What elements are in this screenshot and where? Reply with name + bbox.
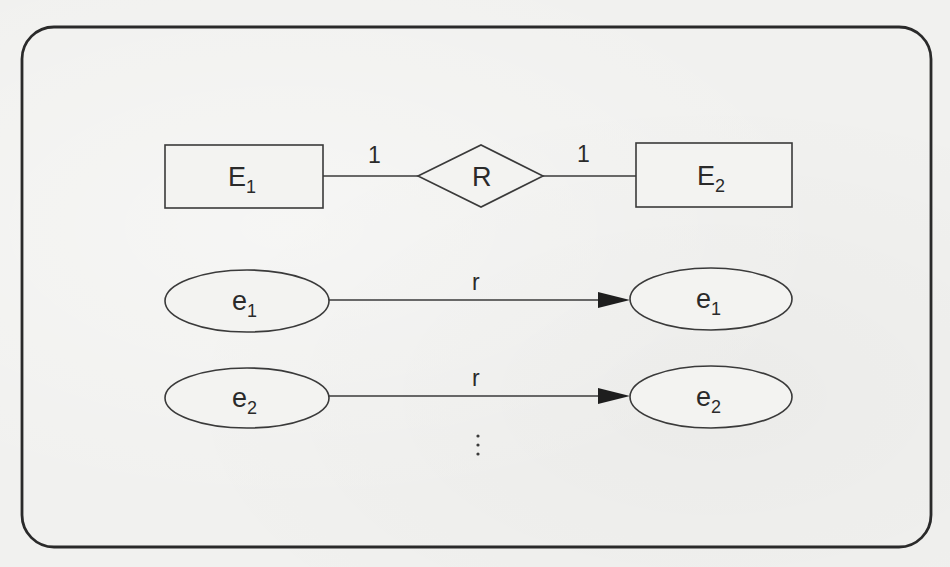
cardinality-left: 1: [368, 142, 381, 168]
continuation-ellipsis-icon: [476, 434, 479, 455]
entity-e2: E2: [636, 143, 792, 207]
diagram-page: E1 R E2 1 1 e1 r e1: [0, 0, 950, 567]
instance-relation-label-1: r: [472, 269, 480, 295]
er-diagram: E1 R E2 1 1 e1 r e1: [0, 0, 950, 567]
arrowhead-icon: [598, 388, 630, 404]
relationship-r: R: [418, 145, 543, 207]
instance-row-1: e1 r e1: [165, 268, 792, 332]
entity-e1: E1: [165, 145, 323, 208]
instance-relation-label-2: r: [472, 365, 480, 391]
relationship-label: R: [472, 162, 492, 192]
arrowhead-icon: [598, 292, 630, 308]
cardinality-right: 1: [577, 141, 590, 167]
instance-row-2: e2 r e2: [165, 365, 792, 428]
schema-level: E1 R E2 1 1: [165, 141, 792, 208]
